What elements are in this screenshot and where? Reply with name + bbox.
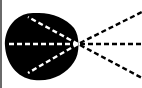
outer-rays bbox=[80, 12, 142, 78]
outer-ray-bottom bbox=[80, 45, 142, 78]
outer-ray-top bbox=[80, 12, 142, 43]
lens-ray-diagram bbox=[0, 0, 142, 88]
lens-blob bbox=[5, 13, 79, 80]
